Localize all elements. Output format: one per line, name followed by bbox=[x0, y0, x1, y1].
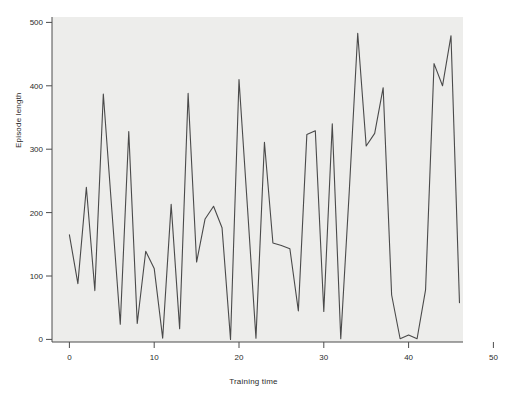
x-tick-label: 30 bbox=[319, 353, 328, 362]
y-ticks bbox=[46, 22, 52, 339]
y-tick-label: 300 bbox=[30, 145, 44, 154]
y-tick-label: 400 bbox=[30, 82, 44, 91]
y-tick-label: 200 bbox=[30, 209, 44, 218]
y-tick-label: 100 bbox=[30, 272, 44, 281]
x-tick-labels: 0 10 20 30 40 50 bbox=[67, 353, 498, 362]
y-axis-title: Episode length bbox=[14, 92, 23, 148]
x-tick-label: 0 bbox=[67, 353, 72, 362]
x-tick-label: 40 bbox=[404, 353, 413, 362]
x-tick-label: 20 bbox=[235, 353, 244, 362]
chart-figure: 500 400 300 200 100 0 0 10 20 30 40 50 E… bbox=[0, 0, 507, 403]
x-tick-label: 50 bbox=[489, 353, 498, 362]
y-tick-label: 0 bbox=[39, 335, 44, 344]
y-tick-label: 500 bbox=[30, 18, 44, 27]
y-tick-labels: 500 400 300 200 100 0 bbox=[30, 18, 44, 344]
x-tick-label: 10 bbox=[150, 353, 159, 362]
x-ticks bbox=[69, 342, 493, 348]
line-chart: 500 400 300 200 100 0 0 10 20 30 40 50 bbox=[0, 0, 507, 403]
x-axis-title: Training time bbox=[0, 377, 507, 386]
